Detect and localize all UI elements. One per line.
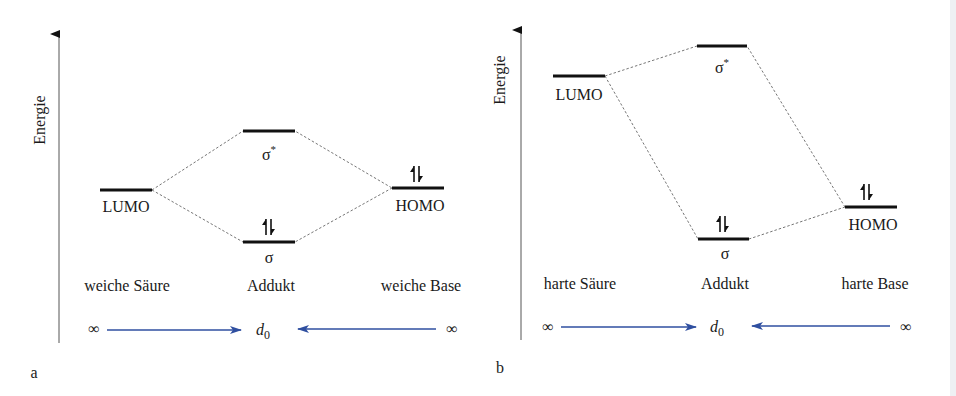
energy-axis-label: Energie [491, 55, 509, 104]
electron-pair-icon [262, 219, 275, 235]
infinity-left: ∞ [542, 318, 553, 335]
acid-column-label: weiche Säure [84, 277, 170, 294]
base-column-label: weiche Base [381, 277, 461, 294]
bonding-correlation-line [605, 76, 845, 239]
equilibrium-distance-label: d0 [710, 318, 724, 339]
equilibrium-distance-label: d0 [256, 321, 270, 342]
bonding-correlation-line [152, 188, 392, 242]
infinity-right: ∞ [446, 320, 457, 337]
sigma-star-label: σ* [715, 56, 729, 76]
panel-a: Energie LUMO σ* σ HOMO weiche Säure Addu [30, 34, 461, 381]
homo-label: HOMO [396, 197, 445, 214]
electron-pair-icon [716, 216, 729, 232]
electron-pair-icon [860, 184, 873, 200]
lumo-label: LUMO [555, 86, 602, 103]
mo-diagram-figure: Energie LUMO σ* σ HOMO weiche Säure Addu [0, 0, 956, 396]
antibonding-correlation-line [605, 46, 845, 207]
infinity-right: ∞ [900, 318, 911, 335]
panel-b: Energie LUMO σ* σ HOMO harte Säure Adduk… [491, 30, 912, 376]
sigma-star-label: σ* [262, 143, 276, 163]
panel-label-b: b [496, 359, 504, 376]
antibonding-correlation-line [152, 131, 392, 190]
adduct-column-label: Addukt [701, 275, 750, 292]
base-column-label: harte Base [841, 275, 908, 292]
energy-axis-label: Energie [31, 95, 49, 144]
acid-column-label: harte Säure [544, 275, 616, 292]
sigma-label: σ [265, 249, 274, 266]
sigma-label: σ [721, 245, 730, 262]
panel-label-a: a [30, 364, 37, 381]
adduct-column-label: Addukt [247, 277, 296, 294]
electron-pair-icon [410, 166, 423, 182]
lumo-label: LUMO [102, 198, 149, 215]
infinity-left: ∞ [88, 320, 99, 337]
homo-label: HOMO [849, 216, 898, 233]
